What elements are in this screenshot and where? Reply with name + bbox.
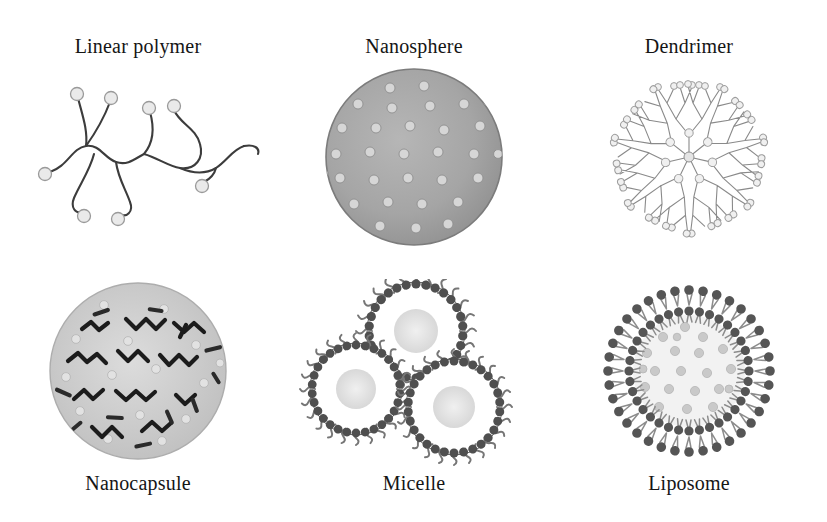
- nanosphere-illustration: [284, 62, 544, 252]
- nanocapsule-illustration: [8, 279, 268, 469]
- panel-dendrimer: Dendrimer: [551, 0, 827, 261]
- polymer-drug-beads: [39, 88, 209, 226]
- panel-linear-polymer: Linear polymer: [0, 0, 276, 261]
- panel-liposome: Liposome: [551, 261, 827, 522]
- micelle-group: [300, 279, 512, 465]
- panel-nanocapsule: Nanocapsule: [0, 261, 276, 522]
- panel-nanosphere: Nanosphere: [276, 0, 552, 261]
- micelle-unit-left: [300, 333, 412, 445]
- panel-micelle: Micelle: [276, 261, 552, 522]
- nanocarrier-figure: Linear polymer: [0, 0, 827, 522]
- micelle-illustration: [284, 279, 544, 469]
- linear-polymer-illustration: [8, 62, 268, 252]
- nanocapsule-shell: [50, 283, 226, 459]
- panel-label-nanosphere: Nanosphere: [365, 36, 463, 56]
- panel-label-nanocapsule: Nanocapsule: [85, 473, 191, 493]
- dendrimer-terminal-nodes: [608, 81, 770, 240]
- panel-label-liposome: Liposome: [648, 473, 730, 493]
- polymer-chains: [50, 98, 258, 215]
- panel-label-linear-polymer: Linear polymer: [75, 36, 202, 56]
- liposome-illustration: [559, 279, 819, 469]
- panel-label-micelle: Micelle: [383, 473, 445, 493]
- panel-label-dendrimer: Dendrimer: [645, 36, 733, 56]
- liposome-vesicle: [603, 285, 775, 457]
- dendrimer-illustration: [559, 62, 819, 252]
- micelle-unit-right: [396, 349, 512, 465]
